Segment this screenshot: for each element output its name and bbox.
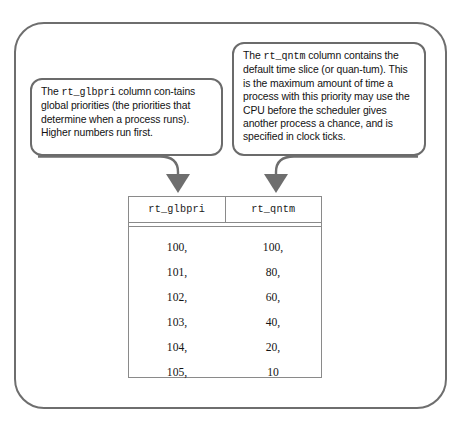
table-row: 102, 60, — [129, 285, 321, 310]
cell-glbpri: 103, — [129, 316, 225, 329]
cell-qntm: 60, — [225, 291, 321, 304]
cell-glbpri: 105, — [129, 366, 225, 379]
cell-qntm: 10 — [225, 366, 321, 379]
callout-qntm-code: rt_qntm — [263, 51, 305, 62]
rt-dptbl-table: rt_glbpri rt_qntm 100, 100, 101, 80, 102… — [128, 196, 322, 378]
callout-glbpri-code: rt_glbpri — [61, 87, 115, 98]
table-header-row: rt_glbpri rt_qntm — [129, 197, 321, 223]
table-row: 103, 40, — [129, 310, 321, 335]
callout-qntm-body: column contains the default time slice (… — [243, 50, 410, 142]
column-header-rt_glbpri: rt_glbpri — [129, 197, 226, 222]
leader-line-qntm — [276, 157, 418, 177]
table-row: 101, 80, — [129, 260, 321, 285]
callout-glbpri-lead: The — [41, 86, 61, 97]
cell-glbpri: 104, — [129, 341, 225, 354]
table-row: 100, 100, — [129, 235, 321, 260]
callout-qntm: The rt_qntm column contains the default … — [232, 42, 426, 156]
column-header-rt_qntm: rt_qntm — [226, 197, 322, 222]
cell-glbpri: 101, — [129, 266, 225, 279]
table-body: 100, 100, 101, 80, 102, 60, 103, 40, 104… — [129, 227, 321, 385]
leader-line-glbpri — [38, 157, 178, 177]
cell-qntm: 80, — [225, 266, 321, 279]
cell-qntm: 20, — [225, 341, 321, 354]
callout-glbpri: The rt_glbpri column con-tains global pr… — [30, 78, 223, 156]
cell-glbpri: 102, — [129, 291, 225, 304]
figure-canvas: The rt_glbpri column con-tains global pr… — [0, 0, 462, 432]
table-row: 105, 10 — [129, 360, 321, 385]
cell-glbpri: 100, — [129, 241, 225, 254]
cell-qntm: 100, — [225, 241, 321, 254]
callout-qntm-lead: The — [243, 50, 263, 61]
table-row: 104, 20, — [129, 335, 321, 360]
cell-qntm: 40, — [225, 316, 321, 329]
arrowhead-qntm — [264, 174, 288, 193]
arrowhead-glbpri — [166, 174, 190, 193]
